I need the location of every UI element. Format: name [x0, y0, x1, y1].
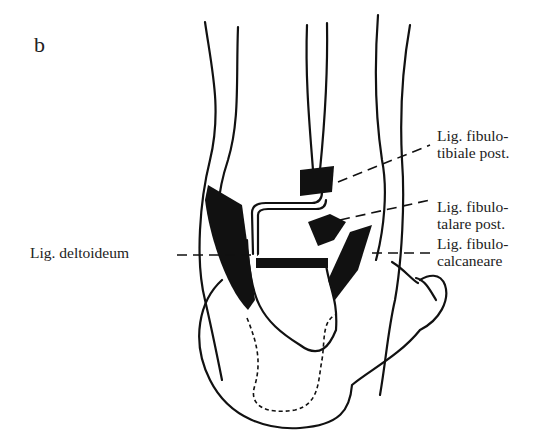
- label-fibulocalcaneal-ligament: Lig. fibulo- calcaneare: [437, 235, 508, 269]
- fibula-area-right: [376, 15, 385, 260]
- label-fibulotibial-post-ligament: Lig. fibulo- tibiale post.: [437, 127, 509, 161]
- transverse-ligament-shape: [256, 258, 328, 268]
- label-deltoid-ligament: Lig. deltoideum: [30, 244, 129, 261]
- fibulotibial-post-shape: [300, 166, 334, 196]
- fibulotalar-post-shape: [308, 214, 346, 246]
- ankle-ligament-diagram: b: [0, 0, 558, 443]
- label-fibulotalar-post-ligament: Lig. fibulo- talare post.: [437, 198, 508, 232]
